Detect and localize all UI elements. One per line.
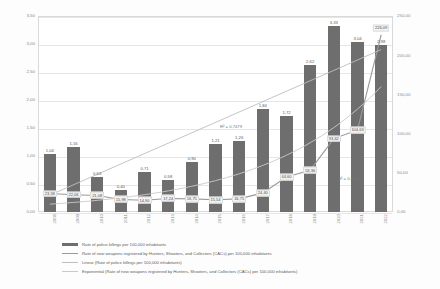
bar-value-label: 1,04	[46, 148, 54, 153]
y-axis-left-tick: 2,50	[26, 69, 35, 74]
chart-root: 0,000,501,001,502,002,503,003,50 0,0050,…	[0, 0, 440, 289]
line-value-label: 16,75	[185, 195, 199, 202]
legend-label: Rate of police killings per 100,000 inha…	[82, 242, 166, 247]
x-axis-tick: 2018	[288, 214, 293, 224]
r2-exponential-annotation: R² = 0,6402	[338, 176, 360, 181]
bar-value-label: 0,71	[140, 166, 148, 171]
bar-value-label: 1,26	[235, 135, 243, 140]
bar-value-label: 1,16	[69, 141, 77, 146]
bar-value-label: 3,33	[330, 20, 338, 25]
y-axis-right-tick: 50,00	[397, 170, 408, 175]
x-axis-tick: 2022	[383, 214, 388, 224]
bar-value-label: 0,90	[188, 156, 196, 161]
y-axis-left-tick: 2,00	[26, 97, 35, 102]
r2-linear-annotation: R² = 0,7479	[220, 124, 242, 129]
bar-value-label: 1,21	[211, 138, 219, 143]
data-labels-layer: R² = 0,7479 R² = 0,6402 1,041,160,630,40…	[38, 16, 393, 212]
y-axis-right-tick: 250,00	[397, 13, 410, 18]
bar-value-label: 0,58	[164, 174, 172, 179]
legend-label: Rate of new weapons registered by Hunter…	[82, 251, 272, 256]
y-axis-left-tick: 3,00	[26, 41, 35, 46]
line-value-label: 23,58	[43, 190, 57, 197]
x-axis-tick: 2014	[194, 214, 199, 224]
y-axis-left-tick: 3,50	[26, 13, 35, 18]
line-value-label: 21,08	[90, 192, 104, 199]
legend-swatch-icon	[62, 253, 78, 254]
legend-swatch-icon	[62, 243, 78, 246]
line-value-label: 22,06	[66, 191, 80, 198]
line-value-label: 15,98	[114, 196, 128, 203]
x-axis-tick: 2015	[217, 214, 222, 224]
x-axis-tick: 2009	[75, 214, 80, 224]
bar-value-label: 2,62	[306, 59, 314, 64]
legend-item[interactable]: Linear (Rate of police killings per 100,…	[62, 258, 392, 267]
x-axis-tick: 2019	[312, 214, 317, 224]
x-axis-tick: 2021	[359, 214, 364, 224]
x-axis-tick: 2020	[336, 214, 341, 224]
x-axis-tick: 2008	[52, 214, 57, 224]
x-axis-tick: 2010	[99, 214, 104, 224]
line-value-label: 16,75	[232, 195, 246, 202]
bar-value-label: 0,63	[93, 171, 101, 176]
line-value-label: 93,62	[327, 135, 341, 142]
x-axis-tick: 2011	[123, 214, 128, 223]
x-axis-tick: 2012	[146, 214, 151, 224]
legend-label: Exponential (Rate of new weapons registe…	[82, 269, 297, 274]
legend-swatch-icon	[62, 262, 78, 263]
chart-legend: Rate of police killings per 100,000 inha…	[62, 240, 392, 276]
bar-value-label: 1,84	[259, 103, 267, 108]
line-value-label: 14,90	[137, 197, 151, 204]
legend-item[interactable]: Rate of police killings per 100,000 inha…	[62, 240, 392, 249]
y-axis-right-tick: 200,00	[397, 53, 410, 58]
line-value-label: 17,24	[161, 195, 175, 202]
line-value-label: 44,60	[279, 174, 293, 181]
legend-item[interactable]: Exponential (Rate of new weapons registe…	[62, 267, 392, 276]
legend-item[interactable]: Rate of new weapons registered by Hunter…	[62, 249, 392, 258]
y-axis-right-tick: 100,00	[397, 131, 410, 136]
y-axis-left-tick: 0,50	[26, 181, 35, 186]
y-axis-left-tick: 0,00	[26, 209, 35, 214]
x-axis: 2008200920102011201220132014201520162017…	[38, 213, 393, 235]
bar-value-label: 2,98	[377, 39, 385, 44]
line-value-label: 104,63	[349, 127, 365, 134]
legend-swatch-icon	[62, 271, 78, 272]
legend-label: Linear (Rate of police killings per 100,…	[82, 260, 182, 265]
y-axis-left-tick: 1,00	[26, 153, 35, 158]
x-axis-tick: 2016	[241, 214, 246, 224]
x-axis-tick: 2017	[265, 214, 270, 224]
line-value-label: 53,36	[303, 167, 317, 174]
y-axis-right-tick: 0,00	[397, 209, 406, 214]
y-axis-right-tick: 150,00	[397, 92, 410, 97]
bar-value-label: 3,04	[353, 36, 361, 41]
line-value-label: 226,09	[373, 24, 389, 31]
line-value-label: 24,40	[256, 189, 270, 196]
y-axis-left-tick: 1,50	[26, 125, 35, 130]
bar-value-label: 1,72	[282, 110, 290, 115]
x-axis-tick: 2013	[170, 214, 175, 224]
line-value-label: 15,54	[208, 196, 222, 203]
bar-value-label: 0,40	[117, 184, 125, 189]
